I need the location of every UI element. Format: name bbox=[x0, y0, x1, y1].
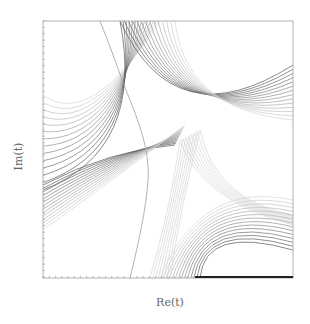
contour-line bbox=[161, 134, 191, 278]
contour-line bbox=[43, 136, 180, 206]
contour-line bbox=[43, 21, 154, 114]
axis-ticks bbox=[43, 21, 293, 278]
contour-curves bbox=[43, 21, 293, 278]
contour-line bbox=[185, 225, 293, 278]
plot-frame bbox=[43, 21, 293, 278]
contour-line bbox=[43, 21, 160, 104]
contour-line bbox=[43, 21, 151, 119]
contour-line bbox=[197, 131, 293, 216]
plot-area bbox=[0, 0, 310, 324]
contour-line bbox=[191, 134, 293, 219]
contour-line bbox=[43, 21, 142, 139]
contour-line bbox=[197, 239, 293, 278]
contour-line bbox=[43, 21, 132, 161]
y-axis-label: Im(t) bbox=[12, 137, 25, 177]
x-axis-label: Re(t) bbox=[140, 296, 200, 309]
contour-line bbox=[189, 136, 293, 221]
bottom-dark-band bbox=[195, 276, 293, 278]
contour-line bbox=[43, 21, 157, 108]
contour-line bbox=[182, 222, 293, 278]
